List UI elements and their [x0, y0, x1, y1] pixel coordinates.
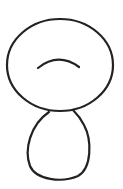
arc-mark	[38, 60, 79, 68]
head-oval	[7, 19, 113, 111]
sketch-canvas	[0, 0, 123, 189]
body-oval	[28, 110, 90, 180]
